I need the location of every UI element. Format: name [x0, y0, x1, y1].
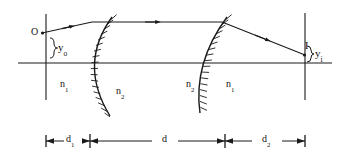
index-left-outer-subscript: 1	[65, 86, 68, 93]
incident-ray-arrow	[62, 26, 72, 28]
index-label-left-inner: n2	[116, 86, 124, 99]
dimension-d2-subscript: 2	[267, 141, 270, 148]
diagram-canvas	[0, 0, 348, 164]
index-label-right-outer: n1	[226, 79, 234, 92]
dimension-d1-subscript: 1	[71, 141, 74, 148]
optics-diagram: O I yo yi n1 n2 n2 n1 d1 d d2	[0, 0, 348, 164]
object-point-marker	[41, 31, 44, 34]
dimension-label-d2: d2	[262, 134, 270, 147]
object-height-symbol: y	[58, 41, 64, 53]
image-point-marker	[303, 53, 306, 56]
first-refracting-surface	[94, 17, 112, 116]
image-height-symbol: y	[315, 47, 321, 59]
index-right-inner-subscript: 2	[191, 86, 194, 93]
image-height-label: yi	[315, 48, 323, 62]
dimension-label-d: d	[162, 134, 167, 147]
index-label-left-outer: n1	[60, 79, 68, 92]
object-height-label: yo	[58, 42, 67, 56]
index-label-right-inner: n2	[186, 79, 194, 92]
index-right-outer-subscript: 1	[231, 86, 234, 93]
image-point-label: I	[305, 41, 308, 51]
object-height-brace	[50, 38, 58, 58]
dimension-label-d1: d1	[66, 134, 74, 147]
dimension-d-symbol: d	[162, 133, 167, 144]
image-height-subscript: i	[321, 55, 323, 64]
second-refracting-surface	[199, 17, 227, 113]
index-left-inner-subscript: 2	[121, 93, 124, 100]
emergent-ray-arrow	[255, 35, 268, 40]
object-point-label: O	[31, 27, 38, 37]
object-height-subscript: o	[64, 49, 68, 58]
